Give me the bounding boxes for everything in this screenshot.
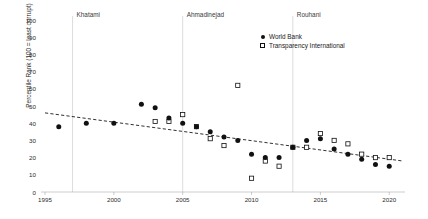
legend-label: World Bank xyxy=(269,33,302,40)
series-transparency-international xyxy=(153,83,391,180)
open-square-icon xyxy=(258,43,267,49)
filled-circle-icon xyxy=(258,35,267,39)
corruption-percentile-chart: Percentile Rank (100 = least corrupt) 01… xyxy=(0,0,428,219)
legend-item-transparency-international: Transparency International xyxy=(258,41,345,50)
series-world-bank xyxy=(56,102,391,169)
legend-label: Transparency International xyxy=(269,42,345,49)
axis-lines xyxy=(41,192,405,195)
chart-legend: World Bank Transparency International xyxy=(258,32,345,50)
legend-item-world-bank: World Bank xyxy=(258,32,345,41)
plot-area xyxy=(0,0,428,219)
